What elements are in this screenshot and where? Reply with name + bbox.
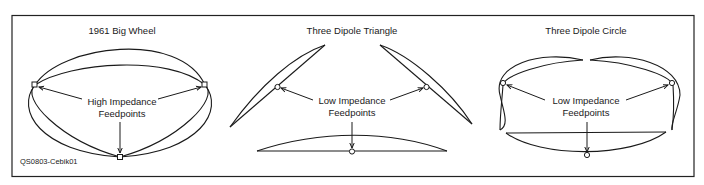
- antenna-diagram-figure: 1961 Big Wheel High Impedance Feedpoints…: [0, 0, 704, 185]
- feedpoint-square-bottom: [118, 155, 123, 160]
- feedpoint-label-line2: Feedpoints: [328, 107, 375, 118]
- feedpoint-circle-left: [275, 84, 280, 89]
- feedpoint-circle-right: [424, 84, 429, 89]
- feedpoint-circle-bottom: [584, 152, 589, 157]
- feedpoint-circle-right: [669, 80, 674, 85]
- feedpoint-label-line1: High Impedance: [87, 96, 156, 107]
- feedpoint-square-left: [32, 82, 37, 87]
- feedpoint-circle-bottom: [349, 149, 354, 154]
- figure-id-caption: QS0803-Cebik01: [20, 157, 78, 166]
- feedpoint-label-line2: Feedpoints: [98, 108, 145, 119]
- panel-title: Three Dipole Circle: [545, 25, 626, 36]
- feedpoint-circle-left: [500, 80, 505, 85]
- feedpoint-square-right: [202, 82, 207, 87]
- feedpoint-label-line2: Feedpoints: [562, 107, 609, 118]
- panel-title: Three Dipole Triangle: [307, 25, 398, 36]
- feedpoint-label-line1: Low Impedance: [552, 95, 619, 106]
- feedpoint-label-line1: Low Impedance: [318, 95, 385, 106]
- panel-title: 1961 Big Wheel: [88, 25, 155, 36]
